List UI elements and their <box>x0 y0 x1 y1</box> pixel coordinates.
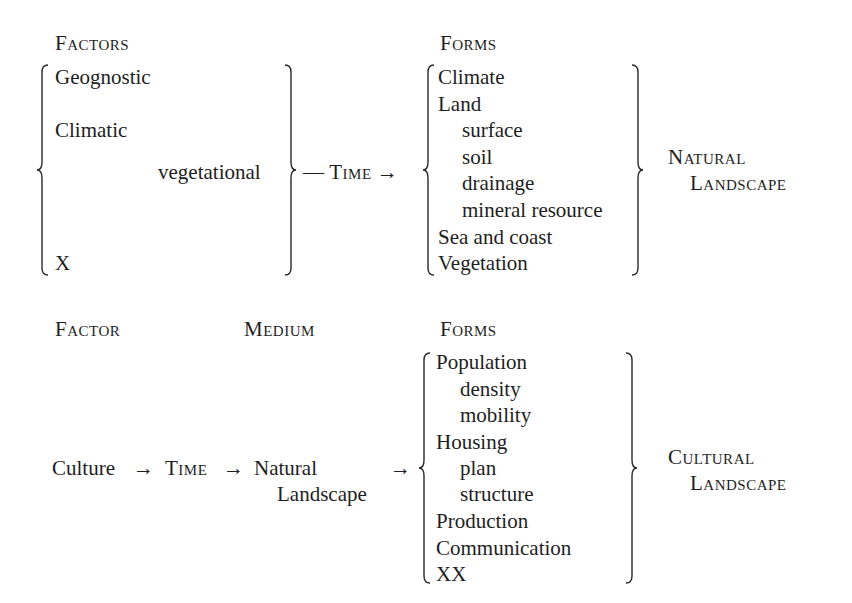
time-label: Time <box>329 160 371 184</box>
natural-landscape-label-line2: Landscape <box>690 170 787 196</box>
arrow-icon: → <box>133 455 154 481</box>
form-item: Housing <box>436 429 507 455</box>
form-subitem: mineral resource <box>462 197 603 223</box>
form-item: Communication <box>436 535 571 561</box>
form-subitem: drainage <box>462 170 534 196</box>
form-subitem: density <box>460 376 521 402</box>
form-subitem: mobility <box>460 402 531 428</box>
factors-right-brace <box>283 64 297 276</box>
factor-heading: Factor <box>55 316 120 342</box>
form-item: Sea and coast <box>438 224 552 250</box>
medium-landscape: Landscape <box>277 481 367 507</box>
medium-heading: Medium <box>244 316 315 342</box>
forms-right-brace <box>630 64 644 276</box>
form-subitem: structure <box>460 481 533 507</box>
forms-heading: Forms <box>440 30 497 56</box>
factor-geognostic: Geognostic <box>55 64 151 90</box>
factors-left-brace <box>36 64 50 276</box>
form-subitem: soil <box>462 144 492 170</box>
forms-right-brace <box>624 352 638 584</box>
factor-x: X <box>55 250 70 276</box>
forms-heading: Forms <box>440 316 497 342</box>
form-item: Climate <box>438 64 505 90</box>
time-connector: — Time → <box>303 159 398 185</box>
factor-culture: Culture <box>52 455 115 481</box>
dash: — <box>303 160 324 184</box>
natural-landscape-label-line1: Natural <box>668 144 746 170</box>
factor-climatic: Climatic <box>55 117 127 143</box>
forms-left-brace <box>418 352 432 584</box>
arrow-icon: → <box>223 455 244 481</box>
time-label: Time <box>165 455 207 481</box>
factors-heading: Factors <box>55 30 129 56</box>
cultural-landscape-label-line1: Cultural <box>668 444 755 470</box>
factor-vegetational: vegetational <box>158 159 261 185</box>
form-item: XX <box>436 561 466 587</box>
forms-left-brace <box>422 64 436 276</box>
form-subitem: plan <box>460 455 496 481</box>
form-item: Land <box>438 91 481 117</box>
arrow-icon: → <box>390 455 411 481</box>
arrow-icon: → <box>377 160 398 184</box>
form-item: Population <box>436 349 527 375</box>
form-item: Production <box>436 508 528 534</box>
form-item: Vegetation <box>438 250 528 276</box>
form-subitem: surface <box>462 117 523 143</box>
cultural-landscape-label-line2: Landscape <box>690 470 787 496</box>
medium-natural: Natural <box>254 455 317 481</box>
